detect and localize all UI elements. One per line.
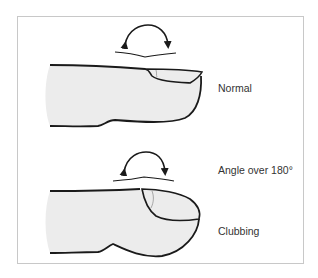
clubbed-finger — [46, 152, 201, 257]
label-angle: Angle over 180° — [218, 164, 293, 176]
angle-arrow-clubbing — [124, 152, 165, 172]
angle-arrow-normal — [125, 25, 168, 45]
label-normal: Normal — [218, 82, 252, 94]
normal-finger — [46, 25, 203, 126]
nail-clubbing-diagram — [0, 0, 318, 278]
label-clubbing: Clubbing — [218, 225, 259, 237]
